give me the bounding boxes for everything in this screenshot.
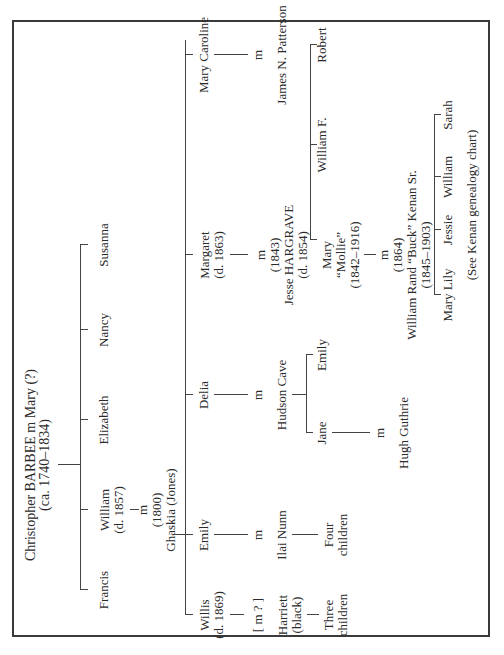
person-francis: Francis [97,571,111,609]
gen3-tick [185,54,193,55]
person-mary-lily: Mary Lily [441,268,455,321]
person-elizabeth: Elizabeth [97,395,111,444]
gen3-tick [185,254,193,255]
gen3-descent-line [174,534,185,535]
tick [306,432,313,433]
person-james-patterson: James N. Patterson [275,5,289,104]
gen2-tick [80,589,88,590]
marriage-line [214,394,248,395]
margaret-marriage: m (1843) Jesse HARGRAVE (d. 1854) [254,205,310,306]
person-emily-cave: Emily [315,339,329,371]
gen2-tick [80,509,88,510]
root-dates: (ca. 1740–1834) [38,369,52,561]
tick [310,239,317,240]
gen2-tick [80,419,88,420]
cave-children-bracket [306,355,307,433]
person-mary-mollie: Mary “Mollie” (1842–1916) [320,221,362,288]
person-sarah: Sarah [441,100,455,130]
gen3-tick [185,534,193,535]
person-william-kenan: William [441,156,455,198]
person-willis: Willis(d. 1869) [198,591,226,639]
willis-children: Threechildren [322,594,350,637]
root-descent-line [58,464,80,465]
descent-line [292,534,318,535]
delia-marriage: m [251,390,265,400]
gen3-tick [185,394,193,395]
person-william-f: William F. [315,118,329,173]
gen2-tick [80,244,88,245]
jane-marriage: m [373,428,387,438]
mary-caroline-marriage: m [251,50,265,60]
person-margaret: Margaret(d. 1863) [198,231,226,279]
person-ilai-nunn: Ilai Nunn [275,510,289,559]
willis-marriage: [ m ? ] [251,598,265,632]
person-william: William(d. 1857) [98,486,126,534]
person-delia: Delia [197,381,211,409]
marriage-line [230,614,244,615]
gen3-tick [185,614,193,615]
emily-children: Fourchildren [322,514,350,557]
descent-line [292,394,306,395]
marriage-line [230,254,248,255]
person-emily: Emily [197,519,211,551]
gen2-bracket [80,245,81,590]
marriage-line [364,254,376,255]
kenan-chart-note: (See Kenan genealogy chart) [465,130,479,281]
marriage-line [214,54,248,55]
person-jessie: Jessie [441,215,455,245]
emily-marriage: m [251,530,265,540]
person-harriett: Harriett(black) [276,595,304,635]
person-mary-caroline: Mary Caroline [197,17,211,93]
root-names: Christopher BARBEE m Mary (?) [24,369,38,561]
person-robert: Robert [315,27,329,62]
mollie-marriage: m (1864) William Rand “Buck” Kenan Sr. (… [377,170,433,340]
marriage-line [332,432,370,433]
hargrave-children-bracket [310,45,311,240]
descent-line [307,614,319,615]
person-hugh-guthrie: Hugh Guthrie [397,397,411,469]
william-marriage: m (1800) Ghaskia (Jones) [136,468,178,551]
kenan-children-bracket [434,115,435,295]
person-hudson-cave: Hudson Cave [275,360,289,430]
person-jane: Jane [315,421,329,444]
tick [306,354,313,355]
root-couple: Christopher BARBEE m Mary (?) (ca. 1740–… [24,369,52,561]
person-nancy: Nancy [97,313,111,347]
marriage-line [214,534,248,535]
gen2-tick [80,329,88,330]
person-susanna: Susanna [97,223,111,266]
genealogy-chart: Christopher BARBEE m Mary (?) (ca. 1740–… [0,0,504,655]
gen3-bracket [185,40,186,615]
